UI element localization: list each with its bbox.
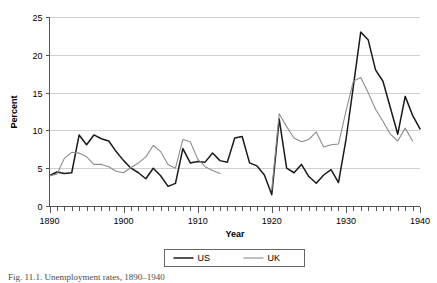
y-tick-label-5: 5: [37, 164, 42, 174]
y-tick-label-25: 25: [32, 13, 42, 23]
x-tick-label-1910: 1910: [188, 216, 208, 226]
chart-legend: USUK: [165, 250, 305, 267]
legend-label-uk: UK: [268, 253, 281, 263]
x-tick-label-1940: 1940: [410, 216, 430, 226]
figure-caption: Fig. 11.1. Unemployment rates, 1890–1940: [8, 272, 408, 282]
y-tick-label-10: 10: [32, 126, 42, 136]
y-axis-title: Percent: [9, 95, 19, 128]
y-tick-label-20: 20: [32, 51, 42, 61]
x-tick-label-1900: 1900: [114, 216, 134, 226]
figure-container: 0510152025 189019001910192019301940 Perc…: [0, 0, 437, 283]
x-tick-label-1930: 1930: [336, 216, 356, 226]
y-tick-label-15: 15: [32, 89, 42, 99]
chart-background: [0, 0, 437, 283]
x-axis-title: Year: [225, 229, 245, 239]
y-tick-label-0: 0: [37, 202, 42, 212]
legend-label-us: US: [198, 253, 211, 263]
x-tick-label-1890: 1890: [39, 216, 59, 226]
unemployment-line-chart: 0510152025 189019001910192019301940 Perc…: [0, 0, 437, 283]
x-tick-label-1920: 1920: [262, 216, 282, 226]
